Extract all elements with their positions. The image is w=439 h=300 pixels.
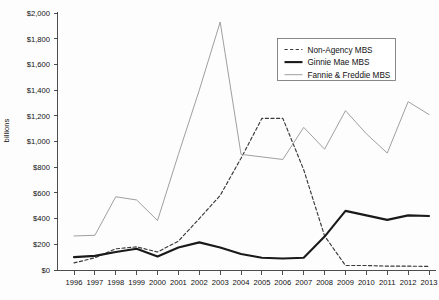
series-line-ginnie-mae-mbs	[74, 211, 429, 259]
y-tick-label: $2,000	[27, 9, 50, 18]
x-tick-label: 2010	[358, 278, 375, 287]
y-tick-label: $0	[42, 266, 50, 275]
x-tick-label: 2005	[253, 278, 270, 287]
x-tick-label: 1999	[128, 278, 145, 287]
y-tick-label: $1,000	[27, 137, 50, 146]
x-axis-ticks: 1996199719981999200020012002200320042005…	[66, 271, 438, 288]
legend-label-2: Fannie & Freddie MBS	[308, 71, 391, 80]
x-tick-label: 2011	[379, 278, 395, 287]
y-tick-label: $400	[33, 214, 50, 223]
series-line-non-agency-mbs	[74, 118, 429, 266]
x-tick-label: 2012	[400, 278, 417, 287]
y-tick-label: $1,200	[27, 112, 50, 121]
x-tick-label: 2002	[191, 278, 208, 287]
x-tick-label: 2013	[421, 278, 438, 287]
y-tick-label: $1,800	[27, 35, 50, 44]
x-tick-label: 2004	[233, 278, 250, 287]
chart-plot-area: $0$200$400$600$800$1,000$1,200$1,400$1,6…	[0, 0, 439, 300]
x-tick-label: 2003	[212, 278, 229, 287]
x-tick-label: 2006	[274, 278, 291, 287]
y-tick-label: $1,400	[27, 86, 50, 95]
chart-legend: Non-Agency MBSGinnie Mae MBSFannie & Fre…	[278, 39, 396, 81]
y-tick-label: $1,600	[27, 60, 50, 69]
legend-label-1: Ginnie Mae MBS	[308, 58, 370, 67]
x-tick-label: 1998	[107, 278, 124, 287]
x-tick-label: 1997	[86, 278, 103, 287]
mbs-issuance-line-chart: billions $0$200$400$600$800$1,000$1,200$…	[0, 0, 439, 300]
x-tick-label: 1996	[66, 278, 83, 287]
y-axis-ticks: $0$200$400$600$800$1,000$1,200$1,400$1,6…	[27, 9, 58, 275]
x-tick-label: 2009	[337, 278, 354, 287]
x-tick-label: 2000	[149, 278, 166, 287]
x-tick-label: 2007	[295, 278, 312, 287]
legend-label-0: Non-Agency MBS	[308, 46, 374, 55]
x-tick-label: 2008	[316, 278, 333, 287]
x-tick-label: 2001	[170, 278, 187, 287]
y-tick-label: $200	[33, 240, 50, 249]
y-tick-label: $800	[33, 163, 50, 172]
y-tick-label: $600	[33, 189, 50, 198]
